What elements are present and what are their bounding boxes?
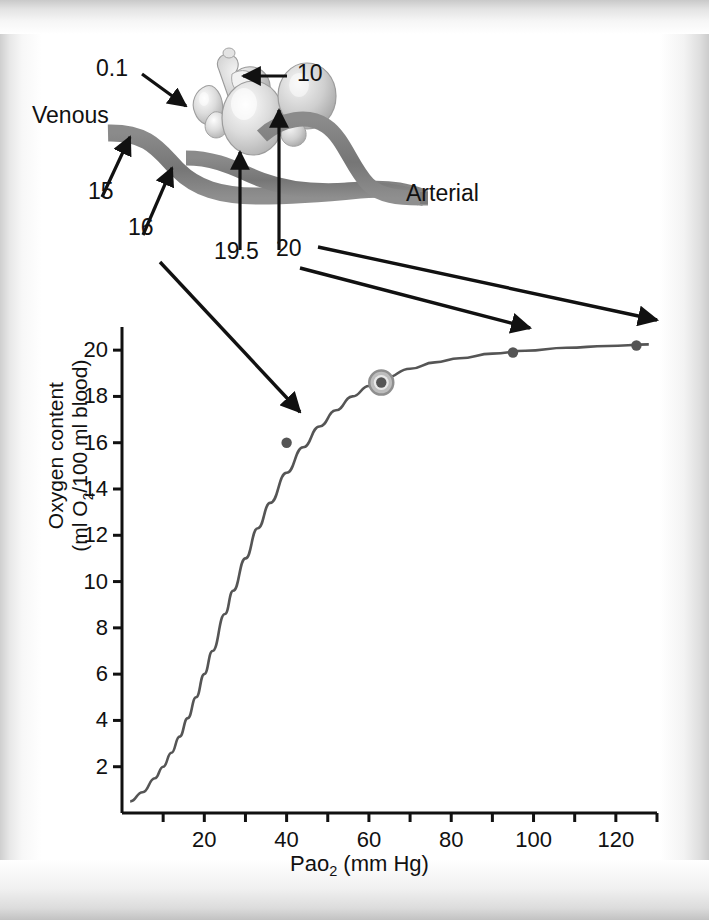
figure-graphics [0, 0, 709, 920]
y-axis-title: Oxygen content (ml O2/100 ml blood) [44, 326, 95, 586]
y-axis-title-sub: 2 [79, 493, 95, 501]
x-tick-label: 120 [586, 829, 646, 851]
arrow-16-to-point [160, 262, 300, 412]
arterial-label: Arterial [406, 182, 479, 205]
callout-label-0-1: 0.1 [96, 57, 128, 80]
data-point-capillary-point [508, 347, 518, 357]
y-axis-title-line2a: (ml O [68, 500, 91, 551]
curve-data-points [281, 340, 641, 448]
chart-axes [122, 327, 657, 813]
callout-label-20: 20 [276, 237, 302, 260]
y-tick-label: 6 [70, 663, 108, 685]
callout-label-16: 16 [128, 216, 154, 239]
x-tick-label: 20 [174, 829, 234, 851]
y-tick-label: 2 [70, 756, 108, 778]
y-axis-title-line2b: /100 ml blood) [68, 360, 91, 493]
arrow-20-to-point [318, 247, 657, 320]
callout-label-10: 10 [297, 62, 323, 85]
x-tick-label: 40 [257, 829, 317, 851]
annotation-arrows-to-curve [160, 247, 657, 412]
x-tick-label: 100 [504, 829, 564, 851]
x-tick-label: 80 [421, 829, 481, 851]
arrow-19-5-to-point [300, 268, 530, 328]
x-axis-title-unit: (mm Hg) [337, 851, 429, 876]
callout-label-19-5: 19.5 [214, 240, 259, 263]
x-axis-title-text: Pao [290, 851, 329, 876]
callout-label-15: 15 [88, 180, 114, 203]
arrow-to-0-1 [142, 74, 186, 106]
data-point-arterial-point [631, 340, 641, 350]
figure-page: 0.1 10 Venous Arterial 15 16 19.5 20 246… [0, 0, 709, 920]
x-axis-title: Pao2 (mm Hg) [290, 853, 429, 879]
y-tick-label: 4 [70, 709, 108, 731]
y-tick-label: 8 [70, 617, 108, 639]
y-axis-title-line1: Oxygen content [44, 382, 67, 529]
data-point-mixed-point [376, 377, 386, 387]
venous-label: Venous [32, 104, 109, 127]
x-tick-label: 60 [339, 829, 399, 851]
data-point-venous-point [281, 438, 291, 448]
oxygen-content-curve [130, 344, 649, 801]
